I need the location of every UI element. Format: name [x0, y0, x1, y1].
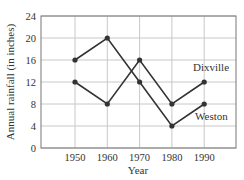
series-label-dixville: Dixville	[193, 61, 229, 73]
rainfall-line-chart: 04812162024 19501960197019801990 Year An…	[0, 0, 244, 180]
x-axis-ticks: 19501960197019801990	[65, 152, 215, 163]
data-point	[105, 35, 110, 40]
data-point	[137, 79, 142, 84]
data-point	[202, 79, 207, 84]
y-tick-label: 20	[26, 33, 37, 44]
data-point	[137, 57, 142, 62]
y-axis-ticks: 04812162024	[26, 11, 37, 154]
data-point	[105, 101, 110, 106]
data-point	[72, 79, 77, 84]
data-point	[169, 123, 174, 128]
series-label-weston: Weston	[195, 110, 228, 122]
x-tick-label: 1970	[129, 152, 150, 163]
data-point	[72, 57, 77, 62]
y-axis-label: Annual rainfall (in inches)	[4, 23, 17, 140]
data-point	[202, 101, 207, 106]
y-tick-label: 0	[31, 143, 36, 154]
x-tick-label: 1980	[161, 152, 182, 163]
y-tick-label: 12	[26, 77, 37, 88]
y-tick-label: 16	[26, 55, 37, 66]
x-tick-label: 1950	[65, 152, 86, 163]
data-point	[169, 101, 174, 106]
x-tick-label: 1960	[97, 152, 118, 163]
y-tick-label: 24	[26, 11, 37, 22]
x-axis-label: Year	[128, 164, 149, 176]
y-tick-label: 4	[31, 121, 37, 132]
x-tick-label: 1990	[194, 152, 215, 163]
y-tick-label: 8	[31, 99, 36, 110]
